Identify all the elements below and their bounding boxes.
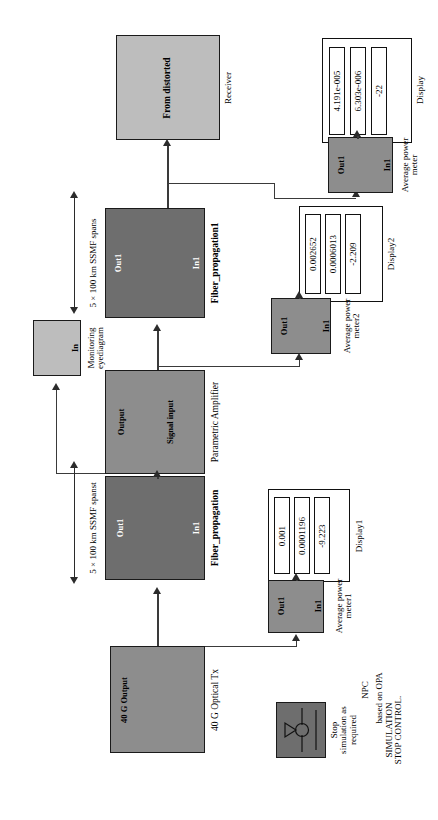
wire-tap-to-apm-h2 [274, 198, 356, 199]
fiber-propagation-port-out: Out1 [116, 519, 125, 537]
span-indicator-1-arrow-top [70, 191, 78, 198]
arrowhead-apm2-in [295, 353, 303, 360]
fiber-propagation-label: Fiber_propagation [211, 490, 221, 566]
display1-value-2: -9.223 [317, 524, 327, 547]
parametric-amplifier-port-out: Output [117, 409, 126, 435]
avg-power-meter1-port-out: Out1 [277, 597, 286, 615]
span-indicator-1 [74, 198, 75, 308]
arrowhead-display1-in [292, 573, 300, 580]
avg-power-meter2-port-in: In1 [322, 320, 331, 332]
display-cell-0: 4.191e-005 [329, 47, 345, 135]
display-cell-2: -22 [371, 47, 387, 135]
avg-power-meter1-port-in: In1 [314, 600, 323, 612]
arrowhead-fp1-in [153, 324, 161, 331]
wire-apm-out-stub [357, 136, 359, 139]
display2-cell-1: 0.0006013 [325, 214, 341, 294]
span-indicator-1-arrow-bottom [70, 307, 78, 314]
span-indicator-0-arrow-bottom [70, 577, 78, 584]
display1-value-0: 0.001 [277, 525, 287, 545]
parametric-amplifier-port-in: Signal input [166, 400, 175, 444]
display-label: Display [416, 76, 425, 104]
parametric-amplifier-label: Parametric Amplifier [211, 382, 221, 462]
display2-value-2: -2.209 [348, 242, 358, 265]
wire-tx-to-apm1-v [296, 641, 297, 647]
display1-cell-0: 0.001 [274, 497, 290, 574]
span-indicator-0 [74, 468, 75, 578]
display1-label: Display1 [355, 520, 364, 553]
display1-cell-1: 0.0001196 [294, 497, 310, 574]
display2-cell-2: -2.209 [345, 214, 361, 294]
wire-tx-to-fp [157, 594, 159, 646]
arrowhead-receiver-in [163, 139, 171, 146]
fiber-propagation-annotation: 5 × 100 km SSMF spanst [89, 482, 98, 573]
avg-power-meter-label: Average power meter [401, 135, 420, 195]
wire-pa-to-apm2-h [157, 366, 300, 367]
avg-power-meter2-port-out: Out1 [280, 317, 289, 335]
arrowhead-apm1-in [292, 634, 300, 641]
npc-annotation-line1: NPC [361, 681, 370, 699]
wire-fp-out-stub [157, 477, 159, 479]
display1-value-1: 0.0001196 [297, 517, 307, 555]
monitoring-eyediagram-port-in: In [71, 344, 80, 352]
display2-value-1: 0.0006013 [328, 235, 338, 273]
arrowhead-display2-in [295, 291, 303, 298]
fiber-propagation1-port-out: Out1 [114, 254, 123, 272]
fiber-propagation-port-in: In1 [192, 522, 201, 534]
display-value-1: 6.303e-006 [353, 71, 363, 112]
avg-power-meter-port-out: Out1 [337, 156, 346, 174]
display1-cell-2: -9.223 [314, 497, 330, 574]
optical-tx-port-out: 40 G Output [120, 677, 129, 723]
avg-power-meter1-label: Average power meter1 [335, 575, 354, 637]
stop-control-glyph [276, 702, 326, 758]
wire-tap-to-apm-v [274, 183, 275, 199]
wire-eye-v [56, 390, 57, 474]
arrowhead-fp-in [153, 587, 161, 594]
arrowhead-pa-in [153, 470, 161, 477]
avg-power-meter-port-in: In1 [383, 159, 392, 171]
fiber-propagation1-annotation: 5 × 100 km SSMF spans [89, 219, 98, 308]
monitoring-eyediagram-label: Monitoring eyediagram [87, 316, 106, 380]
display2-label: Display2 [387, 238, 396, 271]
span-indicator-0-arrow-top [70, 461, 78, 468]
display-value-0: 4.191e-005 [332, 71, 342, 112]
display-cell-1: 6.303e-006 [350, 47, 366, 135]
stop-control-note: Stop simulation as required [330, 702, 358, 758]
wire-pa-to-fp1 [157, 331, 159, 371]
wire-tap-to-apm-h1 [167, 183, 275, 184]
fiber-propagation1-label: Fiber_propagation1 [211, 222, 221, 303]
display2-value-0: 0.002652 [308, 237, 318, 271]
display2-cell-0: 0.002652 [305, 214, 321, 294]
receiver-inner-label: From distorted [163, 57, 173, 118]
avg-power-meter2-label: Average power meter2 [343, 295, 362, 357]
arrowhead-eye-in [52, 383, 60, 390]
diagram-canvas: From distorted Receiver 4.191e-005 6.303… [0, 0, 438, 820]
wire-fp1-to-receiver [167, 146, 169, 210]
wire-pa-to-apm2-v [299, 360, 300, 367]
display-value-2: -22 [374, 85, 384, 97]
receiver-label: Receiver [224, 72, 233, 104]
fiber-propagation1-port-in: In1 [192, 257, 201, 269]
stop-control-title: SIMULATION STOP CONTROL. [385, 695, 404, 765]
optical-tx-label: 40 G Optical Tx [211, 669, 221, 731]
